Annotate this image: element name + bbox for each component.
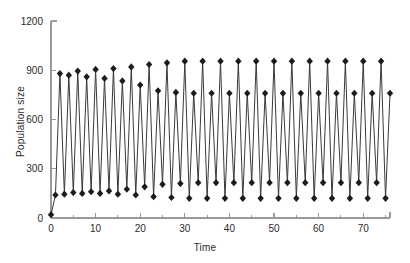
data-point-marker [199,58,205,65]
data-point-marker [204,195,210,202]
data-point-marker [75,67,81,74]
data-point-marker [284,179,290,186]
data-point-marker [137,81,143,88]
data-point-marker [57,70,63,77]
data-point-marker [275,195,281,202]
data-point-marker [155,87,161,94]
data-point-marker [369,90,375,97]
data-point-marker [92,66,98,73]
chart-plot-area: 03006009001200010203040506070 [0,0,410,263]
data-point-marker [253,58,259,65]
data-point-marker [213,179,219,186]
data-point-marker [315,90,321,97]
x-tick-label: 20 [135,223,147,234]
y-tick-label: 600 [26,114,43,125]
data-point-marker [66,72,72,79]
data-point-marker [88,188,94,195]
data-point-marker [79,190,85,197]
x-tick-label: 50 [268,223,280,234]
data-point-marker [115,191,121,198]
data-point-marker [311,195,317,202]
data-point-marker [119,77,125,84]
data-point-marker [387,90,393,97]
data-point-marker [177,180,183,187]
data-point-marker [266,179,272,186]
x-tick-label: 40 [224,223,236,234]
data-point-marker [324,58,330,65]
data-point-marker [342,58,348,65]
data-point-marker [373,179,379,186]
population-oscillation-chart: 03006009001200010203040506070 Population… [0,0,410,263]
data-point-marker [97,190,103,197]
data-point-marker [61,191,67,198]
data-point-marker [235,58,241,65]
data-point-marker [186,195,192,202]
data-point-marker [382,195,388,202]
data-point-marker [226,90,232,97]
data-point-marker [128,63,134,70]
data-point-marker [217,58,223,65]
data-point-marker [150,193,156,200]
data-point-marker [360,58,366,65]
x-tick-label: 60 [313,223,325,234]
data-point-marker [48,211,54,218]
data-series [48,58,393,219]
data-point-marker [70,189,76,196]
series-line [51,61,390,215]
data-point-marker [298,90,304,97]
data-point-marker [289,58,295,65]
data-point-marker [378,58,384,65]
data-point-marker [271,58,277,65]
data-point-marker [146,61,152,68]
data-point-marker [110,65,116,72]
data-point-marker [244,90,250,97]
data-point-marker [164,59,170,66]
y-tick-label: 300 [26,163,43,174]
data-point-marker [240,195,246,202]
data-point-marker [208,90,214,97]
data-point-marker [83,73,89,80]
x-axis-title: Time [0,242,410,253]
data-point-marker [106,187,112,194]
data-point-marker [307,58,313,65]
x-tick-label: 30 [179,223,191,234]
data-point-marker [191,90,197,97]
x-tick-label: 0 [48,223,54,234]
data-point-marker [168,194,174,201]
data-point-marker [159,181,165,188]
data-point-marker [329,195,335,202]
data-point-marker [52,191,58,198]
data-point-marker [173,89,179,96]
data-point-marker [257,195,263,202]
data-point-marker [356,179,362,186]
data-point-marker [262,90,268,97]
data-point-marker [231,179,237,186]
x-tick-label: 10 [90,223,102,234]
y-tick-label: 900 [26,65,43,76]
y-tick-label: 1200 [21,16,44,27]
data-point-marker [293,195,299,202]
data-point-marker [333,90,339,97]
data-point-marker [302,179,308,186]
data-point-marker [141,183,147,190]
data-point-marker [338,179,344,186]
data-point-marker [133,191,139,198]
data-point-marker [365,195,371,202]
data-point-marker [182,58,188,65]
data-point-marker [351,90,357,97]
data-point-marker [249,179,255,186]
data-point-marker [347,195,353,202]
y-tick-label: 0 [37,213,43,224]
data-point-marker [280,90,286,97]
data-point-marker [320,179,326,186]
data-point-marker [101,75,107,82]
data-point-marker [195,179,201,186]
axes [51,21,390,218]
data-point-marker [222,195,228,202]
data-point-marker [124,186,130,193]
y-axis-title: Population size [15,62,26,182]
x-tick-label: 70 [358,223,370,234]
